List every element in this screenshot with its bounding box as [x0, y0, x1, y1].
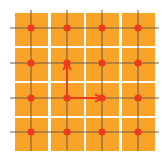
lattice-point	[134, 94, 141, 101]
lattice-point	[27, 94, 34, 101]
lattice-point	[134, 59, 141, 66]
lattice-point	[27, 59, 34, 66]
lattice-point	[63, 128, 70, 135]
lattice-point	[63, 24, 70, 31]
lattice-point	[98, 24, 105, 31]
lattice-point	[27, 24, 34, 31]
lattice-point	[134, 128, 141, 135]
lattice-point	[98, 128, 105, 135]
lattice-diagram	[0, 0, 162, 164]
lattice-point	[98, 59, 105, 66]
unit-cells	[15, 13, 155, 151]
lattice-point	[27, 128, 34, 135]
lattice-point	[134, 24, 141, 31]
